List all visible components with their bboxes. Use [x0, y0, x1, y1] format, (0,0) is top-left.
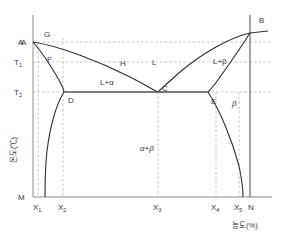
point-l: L [152, 58, 157, 67]
x-tick-X5: X5 [234, 203, 242, 213]
x-tick-X4-sub: 4 [216, 207, 219, 213]
point-c: C [162, 84, 168, 93]
x-tick-N: N [248, 203, 254, 212]
x-tick-X4: X4 [211, 203, 219, 213]
point-b: B [259, 16, 264, 25]
temperature-guides [33, 42, 272, 92]
solvus-alpha-curve [45, 92, 64, 197]
point-h: H [120, 59, 126, 68]
y-tick-T1-sub: 1 [19, 62, 22, 68]
phase-diagram-figure: A G F H L B C D E L+α L+β β α+β A T1 T2 [0, 0, 283, 237]
region-alpha-plus-beta: α+β [140, 144, 154, 153]
y-tick-A: A [18, 38, 24, 47]
y-axis-title: 온도(℃) [9, 137, 18, 163]
x-tick-X1: X1 [33, 203, 41, 213]
x-tick-X3: X3 [153, 203, 161, 213]
point-d: D [68, 96, 74, 105]
region-liquid-plus-beta: L+β [213, 57, 227, 66]
y-tick-M: M [18, 193, 25, 202]
region-beta: β [231, 99, 237, 108]
x-axis-title: 농도(%) [232, 221, 258, 230]
x-tick-X5-sub: 5 [239, 207, 242, 213]
y-tick-T2: T2 [14, 88, 22, 98]
y-tick-T1: T1 [14, 58, 22, 68]
x-tick-labels: X1 X2 X3 X4 X5 N [33, 203, 254, 213]
y-tick-labels: A T1 T2 M [14, 38, 25, 202]
x-tick-X2-sub: 2 [63, 207, 66, 213]
region-liquid-plus-alpha: L+α [100, 78, 114, 87]
x-tick-X1-sub: 1 [38, 207, 41, 213]
point-g: G [44, 30, 50, 39]
y-tick-T2-sub: 2 [19, 92, 22, 98]
solvus-beta-curve [208, 92, 243, 197]
region-label-group: L+α L+β β α+β [100, 57, 237, 153]
point-e: E [211, 97, 216, 106]
x-tick-X2: X2 [58, 203, 66, 213]
phase-diagram-canvas: A G F H L B C D E L+α L+β β α+β A T1 T2 [0, 0, 283, 237]
point-f: F [47, 55, 52, 64]
x-tick-X3-sub: 3 [158, 207, 161, 213]
